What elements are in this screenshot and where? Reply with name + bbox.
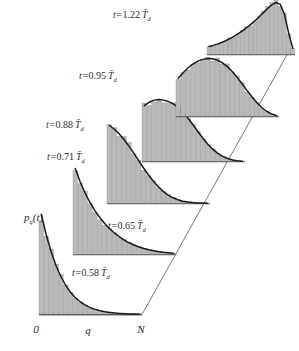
panel-label-time: 0.95	[89, 70, 109, 81]
histogram-bar	[156, 188, 161, 204]
x-tick-labels: 0 q N	[33, 323, 145, 336]
histogram-bar	[112, 128, 117, 204]
histogram-bar	[230, 72, 235, 117]
histogram-bar	[211, 45, 215, 54]
histogram-bar	[210, 61, 215, 116]
x-tick-q: q	[85, 324, 91, 336]
histogram-bar	[83, 191, 88, 254]
panel-label-unit-sub: d	[82, 157, 86, 164]
panel-label-3: t=0.88 T̄d	[46, 119, 85, 132]
panel-label-time: 0.71	[57, 151, 77, 162]
histogram-bar	[136, 160, 141, 203]
histogram-bar	[236, 34, 240, 55]
histogram-bar	[147, 106, 152, 162]
panel-label-2: t=0.71 T̄d	[47, 151, 86, 164]
histogram-bar	[157, 101, 162, 162]
histogram-bar	[253, 21, 257, 54]
histogram-bar	[176, 79, 181, 116]
histogram-bar	[122, 136, 127, 203]
histogram-bar	[64, 285, 69, 314]
histogram-bar	[132, 154, 137, 204]
histogram-bar	[270, 3, 274, 55]
panel-label-time: 0.65	[118, 220, 138, 231]
panel-label-5: t=1.22 T̄d	[113, 9, 152, 22]
histogram-bar	[39, 221, 44, 315]
panel-label-prefix: t=	[72, 267, 82, 278]
histogram-bar	[186, 118, 191, 161]
histogram-bar	[171, 103, 176, 162]
histogram-bar	[132, 245, 137, 254]
histogram-bar	[117, 136, 122, 203]
histogram-bar	[215, 45, 219, 55]
histogram-bar	[274, 0, 278, 55]
histogram-bar	[278, 7, 282, 55]
histogram-bar	[93, 213, 98, 255]
histogram-bar	[215, 58, 220, 117]
panel-label-prefix: t=	[79, 70, 89, 81]
panel-label-time: 0.58	[82, 267, 102, 278]
histogram-bar	[191, 125, 196, 162]
histogram-bar	[49, 249, 54, 315]
histogram-bar	[54, 264, 59, 314]
histogram-bar	[146, 176, 151, 204]
panel-label-0: t=0.58 T̄d	[72, 267, 111, 280]
histogram-bar	[78, 184, 83, 255]
histogram-bar	[78, 302, 83, 314]
histogram-bar	[228, 38, 232, 55]
histogram-bar	[250, 97, 255, 116]
histogram-bar	[257, 16, 261, 54]
x-tick-0: 0	[33, 323, 39, 335]
panel-label-unit-sub: d	[143, 226, 147, 233]
histogram-bar	[107, 125, 112, 204]
histogram-bar	[249, 26, 253, 54]
histogram-bar	[152, 102, 157, 162]
histogram-bar	[245, 92, 250, 116]
histogram-bar	[225, 64, 230, 117]
histogram-bar	[220, 43, 224, 54]
histogram-bar	[141, 170, 146, 203]
panel-4	[176, 57, 279, 117]
panel-label-prefix: t=	[46, 119, 56, 130]
histogram-bar	[73, 298, 78, 314]
histogram-bar	[88, 203, 93, 254]
panel-label-prefix: t=	[108, 220, 118, 231]
panel-label-time: 0.88	[56, 119, 76, 130]
panel-label-unit-sub: d	[81, 125, 85, 132]
y-axis-label: pq(t)	[23, 211, 43, 225]
histogram-bar	[206, 145, 211, 162]
histogram-bar	[181, 115, 186, 161]
histogram-bar	[117, 238, 122, 255]
panel-label-unit-sub: d	[148, 15, 152, 22]
panel-label-prefix: t=	[113, 9, 123, 20]
histogram-bar	[224, 41, 228, 54]
histogram-bar	[186, 70, 191, 116]
histogram-bar	[241, 30, 245, 54]
panel-label-unit-sub: d	[114, 76, 118, 83]
y-axis-label-tail: (t)	[33, 211, 44, 224]
histogram-bar	[107, 228, 112, 254]
panel-label-1: t=0.65 T̄d	[108, 220, 147, 233]
histogram-bar	[207, 47, 211, 55]
histogram-bar	[162, 103, 167, 162]
histogram-bar	[98, 220, 103, 255]
histogram-bar	[191, 64, 196, 116]
histogram-bar	[261, 11, 265, 54]
histogram-bar	[127, 143, 132, 204]
x-tick-N: N	[136, 323, 145, 335]
histogram-bar	[201, 139, 206, 162]
histogram-bar	[44, 236, 49, 314]
panel-label-unit-sub: d	[107, 273, 111, 280]
panel-label-time: 1.22	[123, 9, 143, 20]
histogram-bar	[291, 48, 295, 54]
histogram-bar	[167, 103, 172, 161]
histogram-bar	[196, 131, 201, 161]
histogram-bar	[266, 6, 270, 54]
histogram-bar	[196, 63, 201, 117]
histogram-bar	[88, 308, 93, 314]
histogram-bar	[68, 292, 73, 314]
figure-canvas: 0 q N pq(t) t=0.58 T̄dt=0.65 T̄dt=0.71 T…	[0, 0, 299, 351]
histogram-bar	[181, 73, 186, 117]
histogram-bar	[73, 171, 78, 255]
panel-label-4: t=0.95 T̄d	[79, 70, 118, 83]
histogram-bar	[83, 306, 88, 315]
